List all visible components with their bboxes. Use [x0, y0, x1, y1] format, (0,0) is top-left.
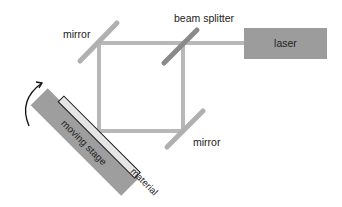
moving-stage-assembly: moving stage: [31, 84, 143, 196]
mirror-bottom-label: mirror: [193, 136, 221, 148]
laser: laser: [244, 28, 327, 59]
beam-splitter: [164, 30, 197, 63]
beam-splitter-label: beam splitter: [174, 12, 235, 24]
interferometer-diagram: mirror beam splitter laser mirror moving…: [0, 0, 342, 207]
mirror-top-label: mirror: [63, 28, 91, 40]
laser-label: laser: [274, 37, 297, 49]
